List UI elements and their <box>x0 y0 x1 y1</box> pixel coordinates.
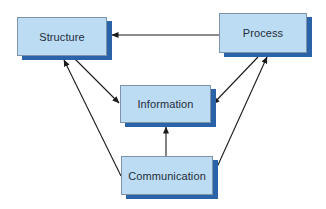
node-information: Information <box>120 85 211 123</box>
node-structure-label: Structure <box>39 31 85 43</box>
node-process: Process <box>219 13 307 53</box>
node-communication: Communication <box>121 156 213 195</box>
node-information-label: Information <box>137 98 193 110</box>
node-communication-label: Communication <box>128 170 206 182</box>
node-process-label: Process <box>243 27 283 39</box>
arrow-communication-to-structure <box>64 60 121 176</box>
arrow-communication-to-process <box>213 57 267 176</box>
node-structure: Structure <box>17 17 107 56</box>
diagram-canvas: Structure Process Information Communicat… <box>0 0 326 209</box>
arrow-process-to-information <box>213 57 258 104</box>
